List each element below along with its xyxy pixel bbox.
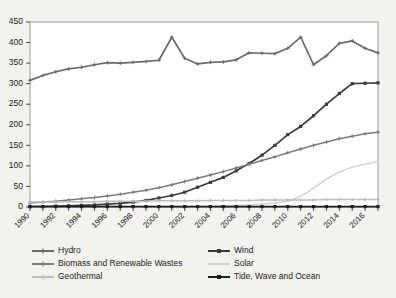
data-point: [338, 205, 341, 208]
data-point: [183, 205, 186, 208]
data-point: [286, 133, 289, 136]
data-point: [325, 205, 328, 208]
data-point: [170, 194, 173, 197]
y-tick-label: 250: [9, 98, 23, 108]
data-point: [67, 205, 70, 208]
data-point: [299, 125, 302, 128]
legend-label: Hydro: [58, 245, 81, 255]
data-point: [312, 205, 315, 208]
line-chart: 050100150200250300350400450 199019921994…: [0, 0, 396, 298]
data-point: [260, 154, 263, 157]
data-point: [351, 205, 354, 208]
data-point: [28, 205, 31, 208]
legend-marker: [217, 275, 221, 279]
y-tick-label: 200: [9, 119, 23, 129]
legend-label: Tide, Wave and Ocean: [234, 271, 321, 281]
data-point: [54, 205, 57, 208]
data-point: [41, 205, 44, 208]
data-point: [286, 205, 289, 208]
chart-container: 050100150200250300350400450 199019921994…: [0, 0, 396, 298]
data-point: [119, 205, 122, 208]
data-point: [222, 176, 225, 179]
data-point: [351, 82, 354, 85]
legend-label: Geothermal: [58, 271, 103, 281]
y-tick-label: 0: [18, 201, 23, 211]
data-point: [273, 205, 276, 208]
legend-label: Wind: [234, 245, 254, 255]
data-point: [196, 186, 199, 189]
legend-marker: [217, 249, 221, 253]
y-tick-label: 100: [9, 160, 23, 170]
data-point: [80, 205, 83, 208]
data-point: [222, 205, 225, 208]
data-point: [132, 205, 135, 208]
y-tick-label: 450: [9, 16, 23, 26]
data-point: [312, 114, 315, 117]
data-point: [376, 81, 379, 84]
y-tick-label: 350: [9, 57, 23, 67]
data-point: [196, 205, 199, 208]
data-point: [364, 205, 367, 208]
data-point: [338, 92, 341, 95]
y-tick-label: 400: [9, 37, 23, 47]
data-point: [183, 191, 186, 194]
legend-label: Biomass and Renewable Wastes: [58, 258, 182, 268]
data-point: [364, 82, 367, 85]
y-tick-label: 50: [14, 181, 24, 191]
data-point: [209, 181, 212, 184]
data-point: [144, 205, 147, 208]
data-point: [106, 205, 109, 208]
data-point: [260, 205, 263, 208]
data-point: [376, 205, 379, 208]
y-tick-label: 150: [9, 140, 23, 150]
data-point: [209, 205, 212, 208]
data-point: [325, 103, 328, 106]
data-point: [93, 205, 96, 208]
legend-label: Solar: [234, 258, 254, 268]
data-point: [170, 205, 173, 208]
data-point: [157, 205, 160, 208]
data-point: [235, 205, 238, 208]
data-point: [248, 205, 251, 208]
data-point: [299, 205, 302, 208]
data-point: [273, 144, 276, 147]
y-tick-label: 300: [9, 78, 23, 88]
